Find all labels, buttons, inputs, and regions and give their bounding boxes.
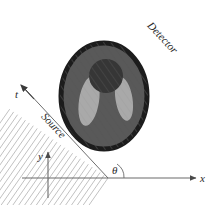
x-axis-label: x <box>199 172 205 184</box>
detector-label: Detector <box>145 18 181 56</box>
theta-arc <box>117 164 124 178</box>
radon-geometry-figure: Detector Source t x y θ <box>0 0 212 205</box>
phantom <box>58 40 152 154</box>
t-axis-arrow <box>21 85 34 99</box>
figure-canvas: Detector Source t x y θ <box>0 0 212 205</box>
y-axis-label: y <box>37 150 43 162</box>
theta-angle-label: θ <box>112 164 118 176</box>
t-axis-label: t <box>15 88 19 100</box>
